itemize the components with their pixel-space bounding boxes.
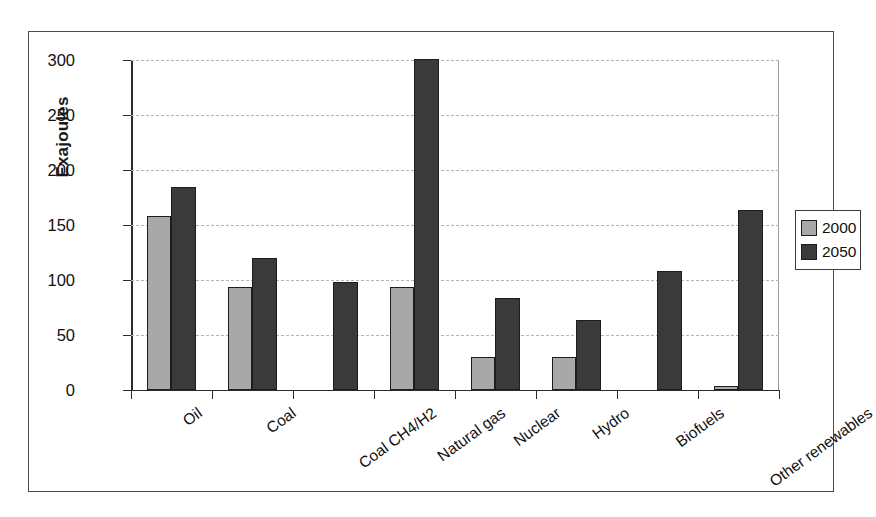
x-tick-mark <box>536 390 537 399</box>
plot-area <box>131 60 779 390</box>
legend-swatch-icon <box>801 244 817 260</box>
legend-label: 2050 <box>822 244 856 260</box>
bar <box>252 258 276 390</box>
bar <box>738 210 762 390</box>
legend-swatch-icon <box>801 220 817 236</box>
x-tick-mark <box>131 390 132 399</box>
y-tick-label-150: 150 <box>15 217 75 234</box>
bar <box>414 59 438 390</box>
x-tick-mark <box>698 390 699 399</box>
chart-legend: 20002050 <box>795 210 861 270</box>
x-tick-mark <box>779 390 780 399</box>
x-tick-mark <box>455 390 456 399</box>
legend-entry: 2050 <box>801 240 855 264</box>
y-tick-label-50: 50 <box>15 327 75 344</box>
x-tick-mark <box>374 390 375 399</box>
y-tick-mark-250 <box>123 115 131 116</box>
x-category-label: Oil <box>180 404 206 430</box>
bar-group <box>471 60 520 390</box>
bar <box>471 357 495 390</box>
bar <box>147 216 171 390</box>
bar-group <box>309 60 358 390</box>
y-tick-mark-150 <box>123 225 131 226</box>
x-category-label: Hydro <box>589 404 633 443</box>
legend-entry: 2000 <box>801 216 855 240</box>
bar-group <box>552 60 601 390</box>
bar-group <box>228 60 277 390</box>
legend-label: 2000 <box>822 220 856 236</box>
x-tick-mark <box>212 390 213 399</box>
y-tick-mark-100 <box>123 280 131 281</box>
bar <box>495 298 519 390</box>
y-tick-mark-300 <box>123 60 131 61</box>
x-category-label: Other renewables <box>767 404 876 490</box>
y-tick-label-0: 0 <box>15 382 75 399</box>
bar <box>576 320 600 390</box>
y-tick-label-100: 100 <box>15 272 75 289</box>
bar <box>171 187 195 391</box>
bar <box>657 271 681 390</box>
y-tick-label-250: 250 <box>15 107 75 124</box>
x-category-label: Natural gas <box>434 404 509 465</box>
x-tick-mark <box>293 390 294 399</box>
x-category-label: Coal CH4/H2 <box>356 404 440 472</box>
bar <box>714 386 738 390</box>
bar <box>228 287 252 390</box>
bar <box>552 357 576 390</box>
y-tick-label-200: 200 <box>15 162 75 179</box>
y-tick-mark-200 <box>123 170 131 171</box>
bar <box>390 287 414 390</box>
bar-group <box>633 60 682 390</box>
chart-figure-frame: Exajoules 050100150200250300 OilCoalCoal… <box>28 31 834 492</box>
y-tick-mark-0 <box>123 390 131 391</box>
bar-group <box>714 60 763 390</box>
x-category-label: Biofuels <box>673 404 728 451</box>
x-category-label: Coal <box>263 404 299 437</box>
x-category-label: Nuclear <box>511 404 565 450</box>
y-tick-mark-50 <box>123 335 131 336</box>
bar-group <box>147 60 196 390</box>
bar <box>333 282 357 390</box>
x-tick-mark <box>617 390 618 399</box>
y-tick-label-300: 300 <box>15 52 75 69</box>
bar-group <box>390 60 439 390</box>
